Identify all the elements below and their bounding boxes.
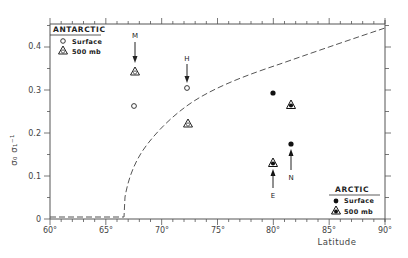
x-tick-85: 85° <box>322 226 336 235</box>
y-axis-label: σ₀ σ₁⁻¹ <box>9 134 19 166</box>
open-triangle-icon <box>59 46 68 54</box>
legend-antarctic-500mb: 500 mb <box>72 48 101 56</box>
point-antarctic-500mb-m <box>131 67 140 75</box>
point-arctic-surface-n <box>288 141 293 146</box>
x-tick-labels: 60° 65° 70° 75° 80° 85° 90° <box>43 226 392 235</box>
filled-triangle-icon <box>332 206 341 214</box>
filled-circle-icon <box>334 199 339 204</box>
x-tick-90: 90° <box>378 226 392 235</box>
point-arctic-500mb-1 <box>287 100 296 109</box>
x-tick-80: 80° <box>266 226 280 235</box>
point-arctic-surface-1 <box>270 90 275 95</box>
chart: 0 0.1 0.2 0.3 0.4 60° 65° 70° 75° 80° 85… <box>0 0 408 258</box>
annotation-n: N <box>288 174 293 182</box>
x-tick-75: 75° <box>211 226 225 235</box>
y-tick-0.2: 0.2 <box>28 129 41 138</box>
point-arctic-500mb-e <box>269 158 278 167</box>
x-tick-70: 70° <box>155 226 169 235</box>
y-tick-0: 0 <box>36 215 41 224</box>
annotation-h: H <box>184 55 189 63</box>
point-antarctic-surface-1 <box>132 104 137 109</box>
legend-arctic-surface: Surface <box>344 197 374 205</box>
legend-arctic: ARCTIC Surface 500 mb <box>329 185 380 216</box>
x-axis-label: Latitude <box>318 237 357 247</box>
x-tick-60: 60° <box>43 226 57 235</box>
point-antarctic-500mb-2 <box>184 119 193 127</box>
annotation-m: M <box>132 32 138 40</box>
legend-arctic-500mb: 500 mb <box>344 208 373 216</box>
series-antarctic: M H <box>131 32 193 127</box>
legend-antarctic: ANTARCTIC Surface 500 mb <box>50 25 106 56</box>
legend-antarctic-surface: Surface <box>72 38 102 46</box>
y-tick-0.1: 0.1 <box>28 172 41 181</box>
y-tick-labels: 0 0.1 0.2 0.3 0.4 <box>28 42 41 224</box>
series-arctic: N E <box>269 90 296 200</box>
point-antarctic-surface-h <box>185 86 190 91</box>
y-tick-0.3: 0.3 <box>28 86 41 95</box>
legend-arctic-title: ARCTIC <box>335 185 369 194</box>
x-tick-65: 65° <box>99 226 113 235</box>
annotation-e: E <box>271 192 275 200</box>
y-tick-0.4: 0.4 <box>28 42 41 51</box>
arrow-down-icon <box>133 56 138 63</box>
legend-antarctic-title: ANTARCTIC <box>53 25 106 34</box>
arrow-down-icon <box>185 76 190 83</box>
open-circle-icon <box>61 39 66 44</box>
